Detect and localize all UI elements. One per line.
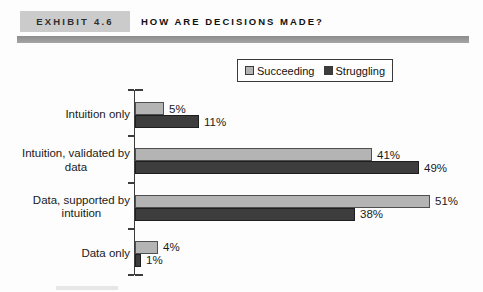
value-label: 4% [163,241,180,253]
bar-succeeding [135,195,430,208]
value-label: 49% [424,162,447,174]
bar-succeeding [135,102,164,115]
category-label: Data, supported by intuition [33,194,130,221]
bar-succeeding [135,241,158,254]
value-label: 5% [169,103,186,115]
category-label: Intuition, validated by data [22,148,130,175]
value-label: 41% [377,149,400,161]
value-label: 51% [435,195,458,207]
axis-tick [128,274,134,276]
value-label: 38% [360,208,383,220]
axis-tick [135,274,143,276]
category-label: Data only [81,247,130,261]
axis-tick [128,228,134,230]
bar-struggling [135,254,141,267]
axis-tick [128,182,134,184]
next-page-element-strip [56,286,118,290]
value-label: 11% [204,116,226,128]
bar-struggling [135,115,199,128]
bar-struggling [135,208,355,221]
axis-tick [128,135,134,137]
bar-succeeding [135,148,372,161]
category-label: Intuition only [65,108,130,122]
bar-struggling [135,161,419,174]
axis-tick [135,89,143,91]
bar-chart: Intuition only5%11%Intuition, validated … [0,0,483,292]
value-label: 1% [146,254,163,266]
axis-tick [128,89,134,91]
page: EXHIBIT 4.6 HOW ARE DECISIONS MADE? Succ… [0,0,483,292]
